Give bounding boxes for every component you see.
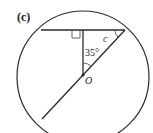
right-angle-marker <box>72 30 80 38</box>
angle-arc-c <box>115 30 118 37</box>
angle-arc-35 <box>83 63 91 66</box>
center-label: O <box>85 75 92 86</box>
circle-diagram: (c) 35° c O <box>0 0 153 133</box>
angle-label-35: 35° <box>85 47 99 58</box>
angle-label-c: c <box>103 33 108 44</box>
part-label: (c) <box>17 10 30 24</box>
